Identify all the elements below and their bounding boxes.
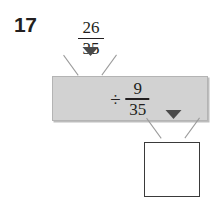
output-funnel — [138, 118, 208, 140]
answer-input-box[interactable] — [144, 142, 200, 197]
function-machine-problem: 17 26 35 ÷ 9 35 — [0, 0, 222, 203]
arrow-head — [82, 47, 98, 73]
arrow-down-icon-input — [86, 56, 95, 74]
operation-expression: ÷ 9 35 — [110, 80, 149, 118]
operand-fraction-numerator: 9 — [132, 80, 143, 97]
operand-fraction: 9 35 — [126, 80, 150, 118]
funnel-line-left — [63, 55, 79, 76]
arrow-down-icon-output — [169, 119, 178, 137]
funnel-line-right — [101, 55, 117, 76]
arrow-head — [165, 110, 181, 136]
operand-fraction-denominator: 35 — [128, 101, 147, 118]
input-funnel — [55, 55, 125, 77]
problem-number: 17 — [14, 14, 36, 35]
funnel-line-left — [146, 118, 162, 139]
funnel-line-right — [184, 118, 200, 139]
division-sign-icon: ÷ — [110, 90, 120, 109]
operation-machine-box: ÷ 9 35 — [52, 76, 208, 121]
input-fraction-numerator: 26 — [82, 19, 101, 36]
